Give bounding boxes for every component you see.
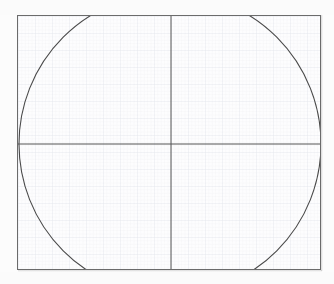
paper-margin-bottom: [0, 272, 334, 284]
frame-shadow-bottom: [18, 270, 322, 272]
diagram-canvas: Circle inscribed on graph paper with cro…: [0, 0, 334, 284]
grid-layer: [18, 16, 320, 269]
paper-margin-top: [0, 0, 334, 15]
frame-shadow-right: [321, 15, 323, 271]
main-circle: [19, 16, 320, 269]
figure-layer: [18, 16, 320, 269]
graph-paper-frame: [17, 15, 321, 270]
